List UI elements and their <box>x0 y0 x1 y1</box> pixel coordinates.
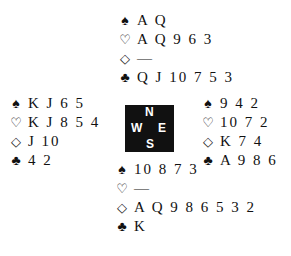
north-clubs: ♣Q J 10 7 5 3 <box>117 68 234 87</box>
heart-icon: ♡ <box>117 30 133 49</box>
north-hearts: ♡A Q 9 6 3 <box>117 30 234 49</box>
cards: 4 2 <box>28 152 53 168</box>
west-clubs: ♣4 2 <box>8 151 100 170</box>
south-hand: ♠10 8 7 3 ♡— ◇A Q 9 8 6 5 3 2 ♣K <box>114 160 256 236</box>
compass-north: N <box>145 106 154 118</box>
club-icon: ♣ <box>8 151 24 170</box>
cards: 10 7 2 <box>220 114 270 130</box>
club-icon: ♣ <box>117 68 133 87</box>
heart-icon: ♡ <box>200 113 216 132</box>
diamond-icon: ◇ <box>8 132 24 151</box>
west-diamonds: ◇J 10 <box>8 132 100 151</box>
east-hearts: ♡10 7 2 <box>200 113 278 132</box>
diamond-icon: ◇ <box>114 198 130 217</box>
spade-icon: ♠ <box>8 94 24 113</box>
compass-east: E <box>158 122 166 134</box>
cards: — <box>137 50 154 66</box>
east-diamonds: ◇K 7 4 <box>200 132 278 151</box>
south-hearts: ♡— <box>114 179 256 198</box>
west-hand: ♠K J 6 5 ♡K J 8 5 4 ◇J 10 ♣4 2 <box>8 94 100 170</box>
south-diamonds: ◇A Q 9 8 6 5 3 2 <box>114 198 256 217</box>
cards: — <box>134 180 151 196</box>
spade-icon: ♠ <box>117 11 133 30</box>
cards: K 7 4 <box>220 133 263 149</box>
compass-box: N W E S <box>125 105 174 152</box>
north-hand: ♠A Q ♡A Q 9 6 3 ◇— ♣Q J 10 7 5 3 <box>117 11 234 87</box>
compass-south: S <box>146 138 154 150</box>
east-hand: ♠9 4 2 ♡10 7 2 ◇K 7 4 ♣A 9 8 6 <box>200 94 278 170</box>
west-hearts: ♡K J 8 5 4 <box>8 113 100 132</box>
south-spades: ♠10 8 7 3 <box>114 160 256 179</box>
south-clubs: ♣K <box>114 217 256 236</box>
cards: 9 4 2 <box>220 95 260 111</box>
diamond-icon: ◇ <box>200 132 216 151</box>
cards: A Q 9 6 3 <box>137 31 213 47</box>
cards: 10 8 7 3 <box>134 161 199 177</box>
spade-icon: ♠ <box>200 94 216 113</box>
heart-icon: ♡ <box>114 179 130 198</box>
compass-west: W <box>131 122 142 134</box>
diamond-icon: ◇ <box>117 49 133 68</box>
cards: A Q <box>137 12 168 28</box>
north-diamonds: ◇— <box>117 49 234 68</box>
cards: J 10 <box>28 133 61 149</box>
heart-icon: ♡ <box>8 113 24 132</box>
west-spades: ♠K J 6 5 <box>8 94 100 113</box>
cards: A Q 9 8 6 5 3 2 <box>134 199 256 215</box>
east-spades: ♠9 4 2 <box>200 94 278 113</box>
club-icon: ♣ <box>114 217 130 236</box>
cards: K J 8 5 4 <box>28 114 100 130</box>
spade-icon: ♠ <box>114 160 130 179</box>
cards: Q J 10 7 5 3 <box>137 69 234 85</box>
cards: K J 6 5 <box>28 95 85 111</box>
cards: K <box>134 218 147 234</box>
north-spades: ♠A Q <box>117 11 234 30</box>
